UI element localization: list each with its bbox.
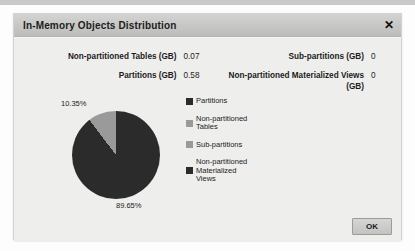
stats-column-right: Sub-partitions (GB) 0 Non-partitioned Ma… (214, 51, 402, 99)
dialog-footer: OK (352, 218, 392, 235)
chart-area: 10.35% 89.65% Partitions Non-partitioned… (14, 93, 401, 218)
stat-label-non-partitioned-tables: Non-partitioned Tables (GB) (34, 51, 184, 62)
stat-value-non-partitioned-materialized-views: 0 (371, 70, 393, 81)
legend-label: Sub-partitions (196, 141, 242, 150)
legend-swatch-icon (186, 167, 193, 174)
legend-label: Non-partitioned Tables (196, 115, 247, 132)
legend-swatch-icon (186, 98, 193, 105)
stat-label-non-partitioned-materialized-views: Non-partitioned Materialized Views (GB) (214, 70, 372, 92)
legend-swatch-icon (186, 120, 193, 127)
page-background-strip (0, 0, 415, 5)
stats-column-left: Non-partitioned Tables (GB) 0.07 Partiti… (14, 51, 214, 99)
stat-label-partitions: Partitions (GB) (34, 70, 184, 81)
pie-graphic (72, 111, 160, 199)
pie-chart: 10.35% 89.65% (60, 101, 174, 215)
stat-value-non-partitioned-tables: 0.07 (184, 51, 214, 62)
legend-item-partitions: Partitions (186, 97, 306, 106)
stats-grid: Non-partitioned Tables (GB) 0.07 Partiti… (14, 51, 401, 99)
dialog-title: In-Memory Objects Distribution (23, 20, 176, 31)
stat-row: Non-partitioned Tables (GB) 0.07 (34, 51, 214, 63)
legend-item-non-partitioned-tables: Non-partitioned Tables (186, 115, 306, 132)
chart-legend: Partitions Non-partitioned Tables Sub-pa… (186, 97, 306, 193)
stat-label-sub-partitions: Sub-partitions (GB) (214, 51, 372, 62)
stat-row: Partitions (GB) 0.58 (34, 70, 214, 82)
legend-item-non-partitioned-materialized-views: Non-partitioned Materialized Views (186, 158, 306, 184)
dialog-titlebar: In-Memory Objects Distribution ✕ (14, 14, 401, 37)
legend-swatch-icon (186, 141, 193, 148)
ok-button[interactable]: OK (352, 218, 392, 235)
stat-row: Non-partitioned Materialized Views (GB) … (214, 70, 394, 92)
stat-row: Sub-partitions (GB) 0 (214, 51, 394, 63)
stat-value-sub-partitions: 0 (371, 51, 393, 62)
stat-value-partitions: 0.58 (184, 70, 214, 81)
pie-slice-label-small: 10.35% (61, 99, 86, 108)
legend-item-sub-partitions: Sub-partitions (186, 141, 306, 150)
legend-label: Non-partitioned Materialized Views (196, 158, 247, 184)
in-memory-objects-distribution-dialog: In-Memory Objects Distribution ✕ Non-par… (13, 13, 402, 240)
pie-slice-label-large: 89.65% (116, 201, 141, 210)
dialog-body: Non-partitioned Tables (GB) 0.07 Partiti… (14, 37, 401, 242)
close-icon[interactable]: ✕ (384, 19, 394, 31)
legend-label: Partitions (196, 97, 227, 106)
